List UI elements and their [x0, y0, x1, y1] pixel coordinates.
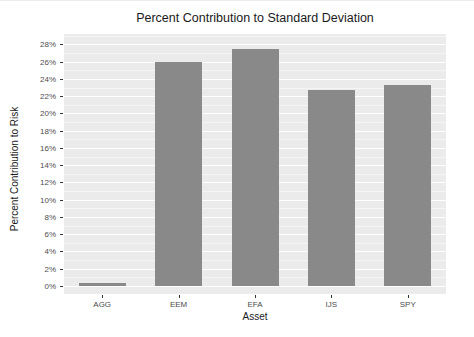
x-tick-mark	[179, 295, 180, 298]
y-tick-mark	[60, 269, 63, 270]
y-tick-label: 26%	[14, 58, 56, 67]
plot-panel	[64, 34, 446, 294]
y-tick-mark	[60, 148, 63, 149]
bar-EFA	[232, 49, 279, 286]
bar-SPY	[384, 85, 431, 286]
bar-AGG	[79, 283, 126, 286]
gridline-minor	[64, 36, 446, 37]
y-tick-label: 22%	[14, 92, 56, 101]
x-tick-label: SPY	[378, 300, 438, 309]
y-tick-mark	[60, 251, 63, 252]
x-tick-mark	[102, 295, 103, 298]
y-tick-label: 2%	[14, 265, 56, 274]
y-tick-label: 4%	[14, 247, 56, 256]
y-tick-label: 0%	[14, 282, 56, 291]
x-tick-mark	[331, 295, 332, 298]
y-tick-label: 28%	[14, 40, 56, 49]
y-tick-mark	[60, 96, 63, 97]
x-tick-mark	[408, 295, 409, 298]
y-tick-mark	[60, 113, 63, 114]
x-tick-label: AGG	[72, 300, 132, 309]
chart-figure: Percent Contribution to Standard Deviati…	[0, 0, 474, 337]
y-tick-label: 6%	[14, 230, 56, 239]
y-tick-mark	[60, 131, 63, 132]
x-tick-label: EFA	[225, 300, 285, 309]
gridline-major	[64, 286, 446, 287]
y-tick-mark	[60, 234, 63, 235]
y-tick-label: 12%	[14, 178, 56, 187]
y-tick-label: 14%	[14, 161, 56, 170]
x-tick-mark	[255, 295, 256, 298]
y-tick-mark	[60, 286, 63, 287]
y-tick-label: 16%	[14, 144, 56, 153]
y-tick-label: 10%	[14, 196, 56, 205]
y-tick-label: 18%	[14, 127, 56, 136]
y-tick-mark	[60, 182, 63, 183]
y-tick-mark	[60, 165, 63, 166]
y-tick-label: 8%	[14, 213, 56, 222]
y-tick-label: 24%	[14, 75, 56, 84]
chart-title: Percent Contribution to Standard Deviati…	[64, 11, 446, 25]
y-tick-mark	[60, 79, 63, 80]
x-axis-title: Asset	[64, 311, 446, 322]
y-tick-mark	[60, 217, 63, 218]
gridline-major	[64, 44, 446, 45]
y-tick-mark	[60, 62, 63, 63]
y-tick-mark	[60, 44, 63, 45]
x-tick-label: EEM	[149, 300, 209, 309]
y-tick-mark	[60, 200, 63, 201]
y-tick-label: 20%	[14, 109, 56, 118]
x-tick-label: IJS	[301, 300, 361, 309]
bar-EEM	[155, 62, 202, 286]
bar-IJS	[308, 90, 355, 286]
